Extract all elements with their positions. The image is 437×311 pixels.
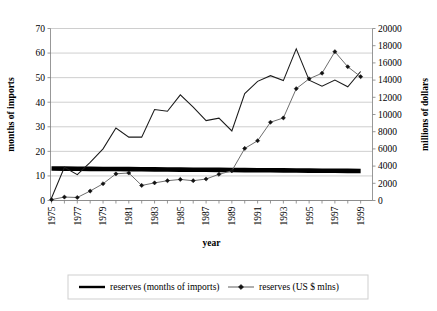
y-tick-label: 30	[36, 122, 46, 132]
y2-tick-label: 16000	[378, 58, 402, 68]
y-axis-title: months of imports	[6, 77, 16, 152]
chart-background	[0, 0, 437, 311]
x-tick-label: 1997	[330, 206, 340, 225]
legend-label: reserves (months of imports)	[110, 282, 220, 293]
y2-tick-label: 12000	[378, 93, 402, 103]
chart-container: 010203040506070 020004000600080001000012…	[0, 0, 437, 311]
x-tick-label: 1985	[176, 206, 186, 225]
x-tick-label: 1999	[356, 206, 366, 225]
y-tick-label: 10	[36, 171, 46, 181]
x-tick-label: 1993	[279, 206, 289, 225]
x-tick-label: 1991	[253, 206, 263, 225]
y2-tick-label: 14000	[378, 75, 402, 85]
y-tick-label: 20	[36, 147, 46, 157]
y2-tick-label: 18000	[378, 41, 402, 51]
y2-tick-label: 20000	[378, 24, 402, 34]
x-tick-label: 1977	[73, 206, 83, 225]
y2-tick-label: 0	[378, 196, 383, 206]
x-tick-label: 1983	[150, 206, 160, 225]
y-tick-label: 40	[36, 98, 46, 108]
y2-tick-label: 10000	[378, 110, 402, 120]
x-tick-label: 1975	[47, 206, 57, 225]
y2-tick-label: 4000	[378, 161, 397, 171]
y2-tick-label: 8000	[378, 127, 397, 137]
y-tick-label: 70	[36, 24, 46, 34]
y-tick-label: 0	[40, 196, 45, 206]
reserves-line-chart: 010203040506070 020004000600080001000012…	[0, 0, 437, 311]
y2-tick-label: 6000	[378, 144, 397, 154]
x-axis-title: year	[203, 238, 222, 248]
legend-label: reserves (US $ mlns)	[259, 282, 339, 293]
y-tick-label: 50	[36, 73, 46, 83]
y2-tick-label: 2000	[378, 179, 397, 189]
x-tick-label: 1981	[124, 206, 134, 225]
x-tick-label: 1995	[305, 206, 315, 225]
x-tick-label: 1979	[98, 206, 108, 225]
y2-axis-title: millions of dollars	[420, 78, 430, 151]
series-line-0	[52, 169, 361, 171]
x-tick-label: 1987	[201, 206, 211, 225]
x-tick-label: 1989	[227, 206, 237, 225]
chart-legend: reserves (months of imports)reserves (US…	[68, 275, 368, 299]
y-tick-label: 60	[36, 48, 46, 58]
